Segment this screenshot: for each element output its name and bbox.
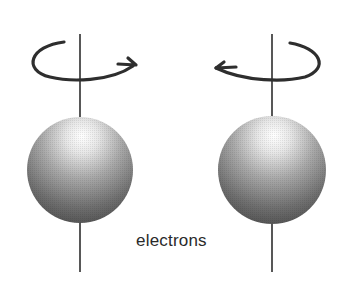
rotation-arrow-icon (33, 42, 136, 80)
electron-sphere-left (27, 117, 133, 223)
rotation-arrow-icon (216, 43, 319, 80)
electron-right (216, 34, 326, 272)
electron-left (27, 34, 136, 272)
electrons-label: electrons (136, 231, 207, 251)
electron-sphere-right (218, 116, 326, 224)
